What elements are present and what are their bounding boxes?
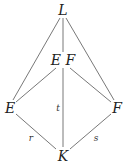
field-extension-lattice-diagram: L E F E F K t r s (0, 0, 127, 167)
node-F: F (112, 101, 122, 115)
edge-label-s: s (94, 134, 99, 143)
edge-E-K (16, 114, 56, 149)
node-EF: E F (51, 53, 75, 67)
node-L: L (58, 3, 67, 17)
node-K: K (58, 149, 68, 163)
edge-F-K (70, 114, 111, 149)
edge-label-r: r (29, 134, 33, 143)
node-E: E (5, 101, 15, 115)
edge-label-t: t (56, 104, 60, 113)
edges-layer (0, 0, 127, 167)
